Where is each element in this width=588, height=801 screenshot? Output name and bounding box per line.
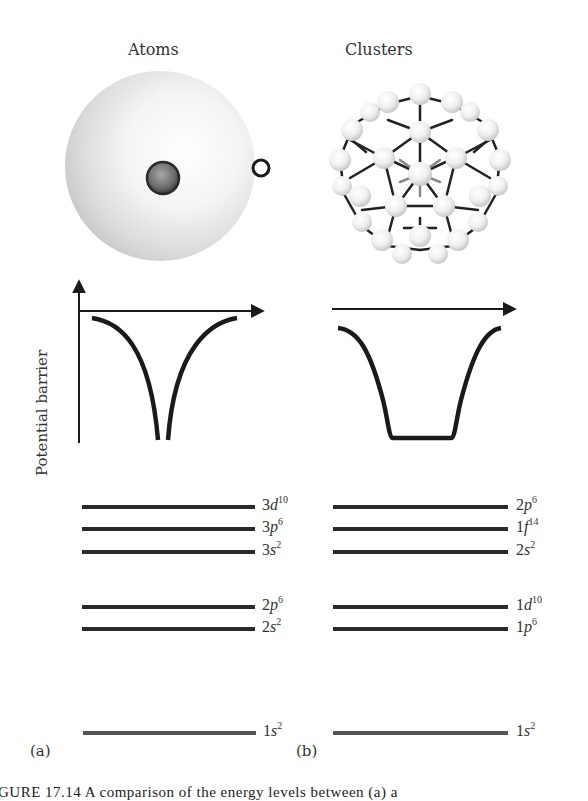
atom-illustration — [65, 71, 269, 261]
level-label: 1s2 — [516, 722, 535, 740]
level-label: 3s2 — [262, 541, 281, 559]
square-well-curve — [338, 328, 501, 438]
cluster-potential-plot — [332, 309, 514, 438]
level-label: 2s2 — [262, 618, 281, 636]
level-label: 3p6 — [262, 518, 283, 536]
panel-label-b: (b) — [296, 742, 317, 760]
nucleus-icon — [147, 162, 179, 194]
level-label: 1p6 — [516, 618, 537, 636]
level-label: 2p6 — [516, 496, 537, 514]
atom-energy-levels — [82, 507, 256, 733]
atom-potential-plot — [79, 282, 262, 443]
y-axis-label: Potential barrier — [33, 350, 51, 476]
level-label: 2s2 — [516, 541, 535, 559]
level-label: 1f14 — [516, 518, 538, 536]
level-label: 1s2 — [263, 722, 282, 740]
coulomb-curve-left — [92, 318, 158, 440]
level-label: 1d10 — [516, 596, 542, 614]
level-label: 2p6 — [262, 596, 283, 614]
cluster-energy-levels — [333, 507, 508, 733]
electron-icon — [253, 160, 269, 176]
figure-caption: GURE 17.14 A comparison of the energy le… — [0, 784, 398, 801]
coulomb-curve-right — [168, 318, 237, 440]
level-label: 3d10 — [262, 496, 288, 514]
panel-label-a: (a) — [30, 742, 51, 760]
